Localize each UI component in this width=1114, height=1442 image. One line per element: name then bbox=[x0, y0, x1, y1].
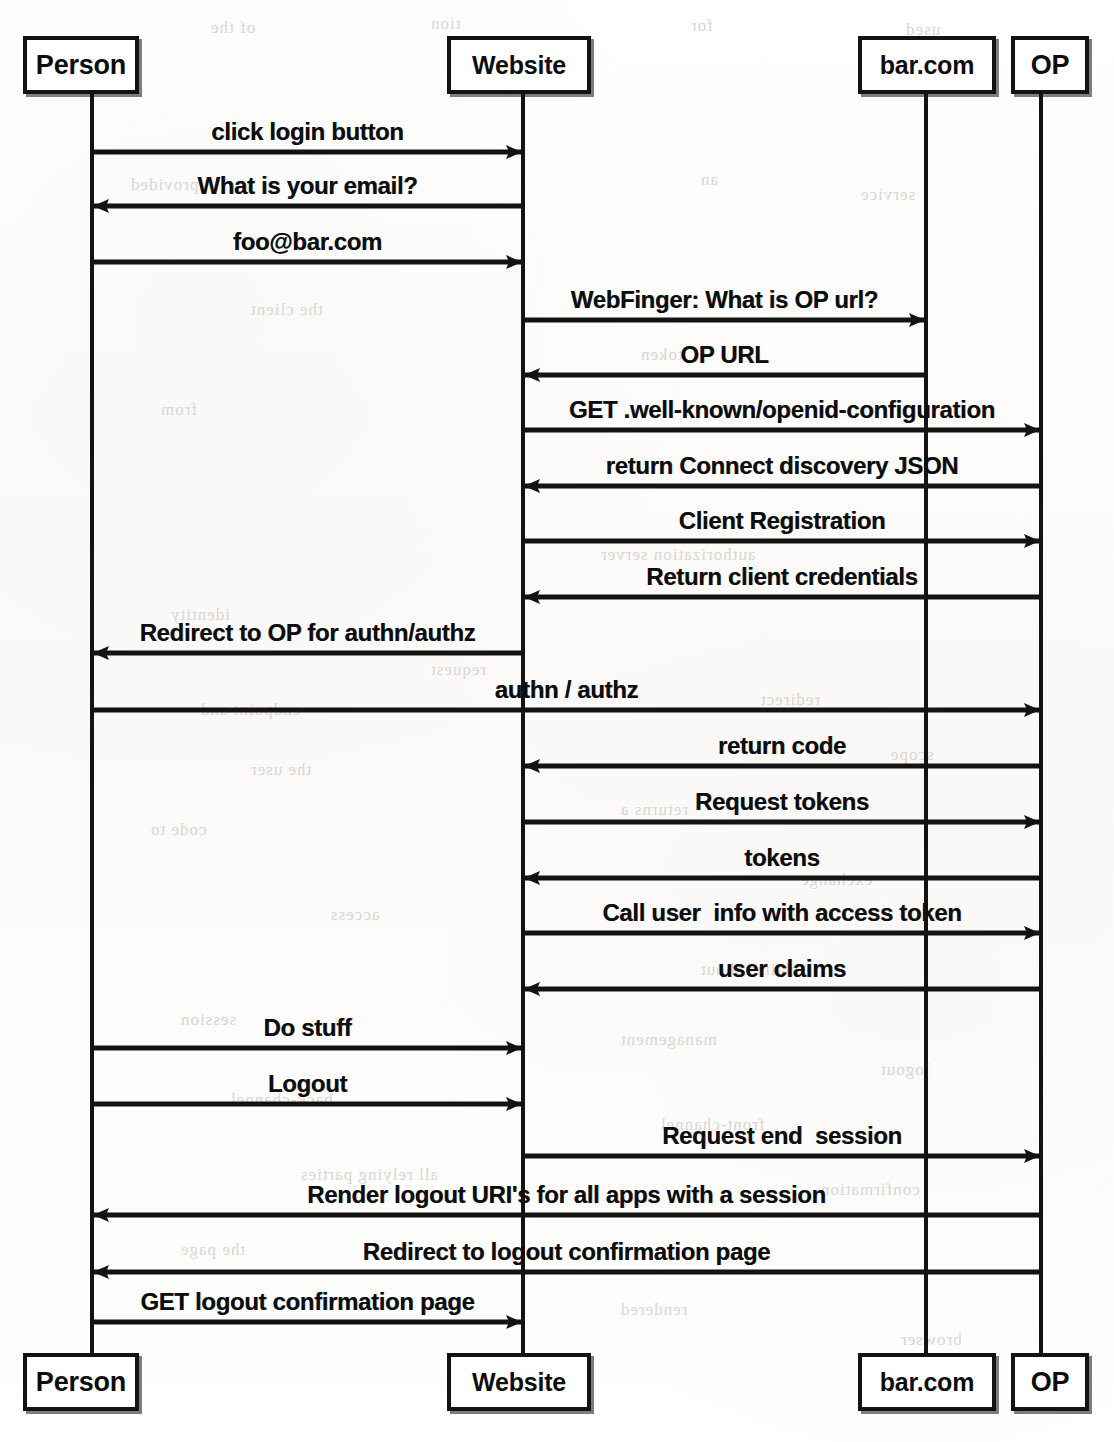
message-label-10: Redirect to OP for authn/authz bbox=[140, 619, 476, 647]
message-label-7: return Connect discovery JSON bbox=[606, 452, 959, 480]
message-label-21: Redirect to logout confirmation page bbox=[363, 1238, 770, 1266]
actor-label-person: Person bbox=[36, 1367, 126, 1398]
actor-box-op-top[interactable]: OP bbox=[1011, 36, 1089, 94]
message-label-11: authn / authz bbox=[495, 676, 638, 704]
message-label-9: Return client credentials bbox=[646, 563, 917, 591]
message-label-14: tokens bbox=[744, 844, 819, 872]
actor-box-barcom-bottom[interactable]: bar.com bbox=[858, 1353, 996, 1411]
message-label-18: Logout bbox=[268, 1070, 347, 1098]
actor-label-op: OP bbox=[1031, 1367, 1070, 1398]
actor-label-person: Person bbox=[36, 50, 126, 81]
actor-label-op: OP bbox=[1031, 50, 1070, 81]
actor-box-website-top[interactable]: Website bbox=[447, 36, 591, 94]
message-label-16: user claims bbox=[718, 955, 846, 983]
message-label-12: return code bbox=[718, 732, 846, 760]
sequence-diagram: of thetionforusedprovidedanservicethe cl… bbox=[0, 0, 1114, 1442]
actor-label-barcom: bar.com bbox=[880, 51, 974, 80]
message-label-19: Request end session bbox=[662, 1122, 902, 1150]
message-label-8: Client Registration bbox=[679, 507, 886, 535]
actor-box-op-bottom[interactable]: OP bbox=[1011, 1353, 1089, 1411]
message-label-13: Request tokens bbox=[695, 788, 869, 816]
message-label-5: OP URL bbox=[680, 341, 768, 369]
message-label-6: GET .well-known/openid-configuration bbox=[569, 396, 995, 424]
actor-box-website-bottom[interactable]: Website bbox=[447, 1353, 591, 1411]
message-label-1: click login button bbox=[211, 118, 403, 146]
actor-label-website: Website bbox=[472, 51, 566, 80]
message-label-2: What is your email? bbox=[197, 172, 417, 200]
message-label-20: Render logout URI's for all apps with a … bbox=[307, 1181, 826, 1209]
lifelines-group bbox=[92, 94, 1041, 1353]
diagram-vector-layer bbox=[0, 0, 1114, 1442]
message-label-17: Do stuff bbox=[264, 1014, 352, 1042]
actor-label-website: Website bbox=[472, 1368, 566, 1397]
actor-box-barcom-top[interactable]: bar.com bbox=[858, 36, 996, 94]
message-label-4: WebFinger: What is OP url? bbox=[571, 286, 878, 314]
actor-box-person-top[interactable]: Person bbox=[23, 36, 139, 94]
message-label-22: GET logout confirmation page bbox=[140, 1288, 474, 1316]
actor-label-barcom: bar.com bbox=[880, 1368, 974, 1397]
message-label-3: foo@bar.com bbox=[233, 228, 382, 256]
message-label-15: Call user info with access token bbox=[602, 899, 961, 927]
actor-box-person-bottom[interactable]: Person bbox=[23, 1353, 139, 1411]
